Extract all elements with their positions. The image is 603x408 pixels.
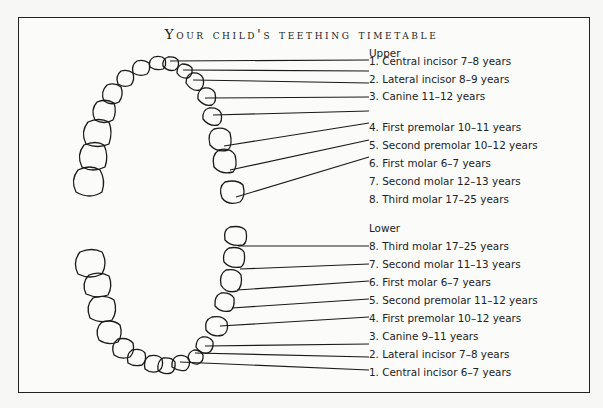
tooth-lower-7	[224, 248, 245, 268]
teeth-diagram	[0, 0, 603, 408]
lower-heading: Lower	[369, 222, 400, 234]
upper-label-first-premolar: 4. First premolar 10–11 years	[369, 121, 521, 133]
tooth-upper-4	[198, 88, 216, 106]
tooth-icon	[88, 296, 116, 321]
tooth-icon	[84, 273, 111, 297]
tooth-icon	[117, 70, 134, 86]
tooth-lower-5	[215, 293, 234, 312]
leader-lines	[170, 60, 369, 370]
tooth-lower-6	[221, 270, 242, 292]
upper-arch-left	[73, 56, 165, 196]
lower-label-first-premolar: 4. First premolar 10–12 years	[369, 312, 521, 324]
upper-arch-right	[163, 57, 244, 204]
lower-label-second-premolar: 5. Second premolar 11–12 years	[369, 294, 538, 306]
lower-label-third-molar: 8. Third molar 17–25 years	[369, 240, 509, 252]
tooth-upper-3	[186, 73, 204, 91]
lower-arch-right	[172, 227, 247, 371]
upper-label-second-molar: 7. Second molar 12–13 years	[369, 175, 521, 187]
tooth-upper-8	[221, 181, 244, 203]
upper-label-central-incisor: 1. Central incisor 7–8 years	[369, 55, 511, 67]
lower-label-first-molar: 6. First molar 6–7 years	[369, 276, 491, 288]
tooth-upper-5	[203, 108, 222, 126]
tooth-icon	[133, 60, 150, 75]
lower-arch-left	[75, 250, 175, 374]
upper-label-canine: 3. Canine 11–12 years	[369, 90, 485, 102]
lower-label-second-molar: 7. Second molar 11–13 years	[369, 258, 521, 270]
tooth-upper-2	[177, 64, 192, 78]
tooth-upper-6	[209, 128, 231, 151]
upper-label-first-molar: 6. First molar 6–7 years	[369, 157, 491, 169]
lower-label-lateral-incisor: 2. Lateral incisor 7–8 years	[369, 348, 509, 360]
tooth-icon	[145, 355, 163, 372]
upper-label-lateral-incisor: 2. Lateral incisor 8–9 years	[369, 73, 509, 85]
tooth-icon	[113, 339, 134, 359]
lower-label-canine: 3. Canine 9–11 years	[369, 330, 479, 342]
upper-label-second-premolar: 5. Second premolar 10–12 years	[369, 139, 538, 151]
upper-label-third-molar: 8. Third molar 17–25 years	[369, 193, 509, 205]
tooth-icon	[73, 167, 103, 196]
tooth-lower-8	[225, 227, 247, 246]
tooth-lower-3	[196, 337, 213, 353]
lower-label-central-incisor: 1. Central incisor 6–7 years	[369, 366, 511, 378]
